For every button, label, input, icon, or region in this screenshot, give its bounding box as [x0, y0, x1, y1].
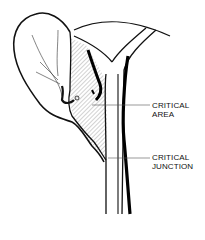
critical-area-label: CRITICAL AREA	[152, 101, 189, 119]
upper-arc	[74, 22, 170, 36]
critical-junction-label: CRITICAL JUNCTION	[152, 153, 193, 171]
dark-vessel-right	[123, 56, 130, 214]
vessel-branches-icon	[32, 30, 62, 96]
